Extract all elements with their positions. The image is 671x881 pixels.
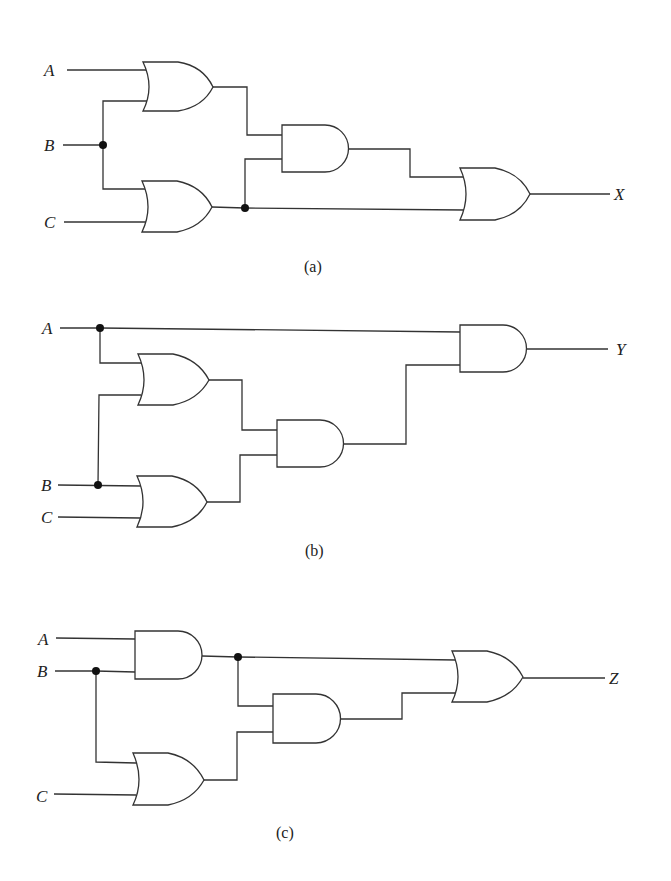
junction-dot-or2	[241, 204, 249, 212]
panel-c: A B C Z (c)	[36, 630, 619, 842]
wire-b-to-or1	[103, 101, 147, 145]
wire-a-to-and2	[100, 328, 460, 332]
or-gate-1	[138, 354, 209, 405]
wire-and1-to-and2	[343, 365, 460, 444]
and-gate-2	[460, 325, 526, 372]
panel-a: A B C X (a)	[43, 61, 625, 276]
input-label-c: C	[36, 787, 48, 806]
input-label-a: A	[41, 319, 53, 338]
wire-and1-to-junction	[202, 656, 238, 657]
wire-a-to-and1	[56, 638, 135, 639]
wire-b-to-or1	[96, 671, 136, 763]
output-label-x: X	[613, 185, 625, 204]
wire-or1-to-and1	[208, 380, 277, 430]
wire-junction-to-and1	[245, 159, 282, 208]
junction-dot-and1	[234, 653, 242, 661]
input-label-c: C	[41, 508, 53, 527]
wire-or2-to-and1	[207, 455, 277, 502]
input-label-b: B	[44, 136, 55, 155]
wire-junction-to-or2	[238, 657, 456, 660]
or-gate-1	[133, 753, 204, 805]
wire-or1-to-and2	[203, 732, 273, 780]
input-label-a: A	[37, 630, 49, 649]
wire-and1-to-or3	[348, 149, 464, 177]
wire-b-to-and1	[96, 671, 135, 672]
and-gate-1	[282, 125, 349, 172]
and-gate-2	[273, 694, 341, 743]
wire-b-to-or1	[98, 395, 141, 485]
junction-dot-b	[92, 667, 100, 675]
wire-or1-to-and1	[213, 87, 282, 135]
wire-b-to-or2	[103, 145, 146, 189]
or-gate-3	[460, 168, 530, 220]
output-label-y: Y	[616, 340, 627, 359]
junction-dot-b	[94, 481, 102, 489]
wire-junction-to-or3	[245, 208, 464, 210]
junction-dot-a	[96, 324, 104, 332]
wire-junction-to-and2	[238, 657, 273, 706]
output-label-z: Z	[609, 669, 619, 688]
wire-a-to-or1	[100, 328, 141, 363]
wire-c-to-or2	[58, 517, 140, 518]
or-gate-2	[137, 476, 207, 527]
and-gate-1	[135, 631, 202, 679]
or-gate-2	[142, 181, 212, 232]
caption-b: (b)	[305, 542, 324, 560]
or-gate-2	[452, 651, 523, 702]
logic-circuits-figure: A B C X (a) A B C Y (b)	[0, 0, 671, 881]
input-label-b: B	[41, 476, 52, 495]
input-label-a: A	[43, 61, 55, 80]
input-label-b: B	[37, 662, 48, 681]
or-gate-1	[143, 62, 213, 111]
and-gate-1	[277, 420, 343, 467]
wire-c-to-or1	[54, 794, 136, 795]
caption-c: (c)	[276, 824, 294, 842]
caption-a: (a)	[304, 258, 322, 276]
junction-dot-b	[99, 141, 107, 149]
wire-or2-to-junction	[212, 207, 245, 208]
panel-b: A B C Y (b)	[41, 319, 627, 560]
input-label-c: C	[44, 213, 56, 232]
wire-and2-to-or2	[340, 693, 456, 719]
